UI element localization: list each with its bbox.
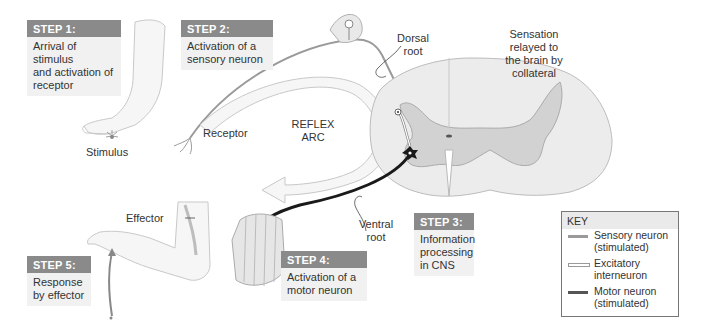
step-2-description: Activation of a sensory neuron [181, 37, 273, 70]
legend-line: (stimulated) [594, 297, 656, 309]
legend-item-interneuron: Excitatory interneuron [562, 257, 678, 285]
legend-item-sensory: Sensory neuron (stimulated) [562, 229, 678, 257]
receptor-label: Receptor [203, 127, 248, 140]
dorsal-root-line: Dorsal [393, 32, 433, 45]
step-5-callout: STEP 5: Response by effector [27, 256, 91, 306]
step-5-description: Response by effector [27, 273, 91, 306]
ventral-root-line: Ventral [355, 218, 397, 231]
interneuron-swatch-icon [568, 263, 590, 267]
step-2-header: STEP 2: [181, 20, 273, 37]
legend-line: (stimulated) [594, 241, 668, 253]
legend-line: interneuron [594, 269, 647, 281]
effector-label: Effector [126, 212, 164, 225]
sensation-collateral-label: Sensation relayed to the brain by collat… [500, 28, 568, 80]
step-1-line: Arrival of stimulus [33, 40, 115, 66]
step-3-line: in CNS [420, 259, 468, 272]
step-2-line: sensory neuron [187, 53, 267, 66]
sensation-line: relayed to [500, 41, 568, 54]
reflex-arc-line: ARC [288, 131, 338, 144]
muscle-bundle-illustration [232, 214, 285, 286]
step-1-header: STEP 1: [27, 20, 121, 37]
step-3-line: Information [420, 233, 468, 246]
step-3-description: Information processing in CNS [414, 230, 474, 276]
sensation-line: Sensation [500, 28, 568, 41]
step-1-line: receptor [33, 79, 115, 92]
legend-key: KEY Sensory neuron (stimulated) Excitato… [561, 211, 679, 317]
motor-swatch-icon [568, 291, 588, 294]
ventral-root-line: root [355, 231, 397, 244]
step-4-line: Activation of a [287, 271, 361, 284]
stimulus-label: Stimulus [86, 146, 128, 159]
ventral-root-label: Ventral root [355, 218, 397, 244]
legend-label: Motor neuron (stimulated) [594, 285, 656, 309]
step-4-description: Activation of a motor neuron [281, 268, 367, 301]
step-2-line: Activation of a [187, 40, 267, 53]
legend-line: Excitatory [594, 257, 647, 269]
step-4-line: motor neuron [287, 284, 361, 297]
step-3-header: STEP 3: [414, 213, 474, 230]
step-5-header: STEP 5: [27, 256, 91, 273]
reflex-arc-line: REFLEX [288, 118, 338, 131]
legend-line: Sensory neuron [594, 229, 668, 241]
legend-label: Sensory neuron (stimulated) [594, 229, 668, 253]
step-3-callout: STEP 3: Information processing in CNS [414, 213, 474, 276]
sensation-line: collateral [500, 67, 568, 80]
step-1-line: and activation of [33, 66, 115, 79]
step-5-line: by effector [33, 289, 85, 302]
legend-title: KEY [562, 212, 678, 229]
legend-label: Excitatory interneuron [594, 257, 647, 281]
sensory-swatch-icon [568, 235, 588, 238]
step-2-callout: STEP 2: Activation of a sensory neuron [181, 20, 273, 70]
reflex-arc-diagram: STEP 1: Arrival of stimulus and activati… [0, 0, 709, 336]
spinal-cord-cross-section [370, 58, 612, 196]
step-3-line: processing [420, 246, 468, 259]
step-1-callout: STEP 1: Arrival of stimulus and activati… [27, 20, 121, 96]
step-5-line: Response [33, 276, 85, 289]
step-1-description: Arrival of stimulus and activation of re… [27, 37, 121, 96]
legend-item-motor: Motor neuron (stimulated) [562, 285, 678, 313]
step-4-header: STEP 4: [281, 251, 367, 268]
sensation-line: the brain by [500, 54, 568, 67]
dorsal-root-line: root [393, 45, 433, 58]
dorsal-root-label: Dorsal root [393, 32, 433, 58]
legend-line: Motor neuron [594, 285, 656, 297]
step-4-callout: STEP 4: Activation of a motor neuron [281, 251, 367, 301]
reflex-arc-label: REFLEX ARC [288, 118, 338, 144]
